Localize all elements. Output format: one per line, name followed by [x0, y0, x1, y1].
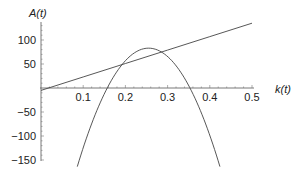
x-axis-label: k(t) — [275, 83, 291, 95]
x-tick-label: 0.5 — [244, 91, 259, 103]
y-tick-label: 50 — [24, 58, 36, 70]
chart: 0.10.20.30.40.510050−50−100−150 A(t) k(t… — [0, 0, 297, 176]
series-line — [41, 23, 252, 90]
y-tick-label: 100 — [18, 34, 36, 46]
series — [41, 23, 252, 166]
tick-labels: 0.10.20.30.40.510050−50−100−150 — [11, 34, 259, 166]
series-parabola — [77, 48, 220, 166]
y-tick-label: −100 — [11, 130, 36, 142]
ticks — [41, 26, 252, 160]
x-tick-label: 0.4 — [202, 91, 217, 103]
x-tick-label: 0.3 — [160, 91, 175, 103]
x-tick-label: 0.1 — [76, 91, 91, 103]
y-axis-label: A(t) — [28, 7, 47, 19]
axes — [40, 22, 254, 161]
y-tick-label: −50 — [17, 106, 36, 118]
y-tick-label: −150 — [11, 154, 36, 166]
x-tick-label: 0.2 — [118, 91, 133, 103]
